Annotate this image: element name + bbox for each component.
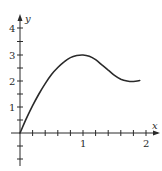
function-curve (20, 55, 140, 133)
y-axis-label: y (24, 13, 31, 24)
x-tick-label-2: 2 (143, 138, 149, 149)
y-tick-label-3: 3 (9, 50, 15, 61)
y-tick-label-2: 2 (9, 76, 15, 87)
x-axis-arrow-icon (153, 131, 160, 136)
y-axis-arrow-icon (18, 14, 23, 21)
x-axis-label: x (152, 120, 158, 131)
chart: x y 1 2 1 2 3 4 (0, 0, 162, 171)
y-tick-label-1: 1 (9, 102, 15, 113)
y-tick-label-4: 4 (9, 23, 15, 34)
x-tick-label-1: 1 (80, 138, 86, 149)
